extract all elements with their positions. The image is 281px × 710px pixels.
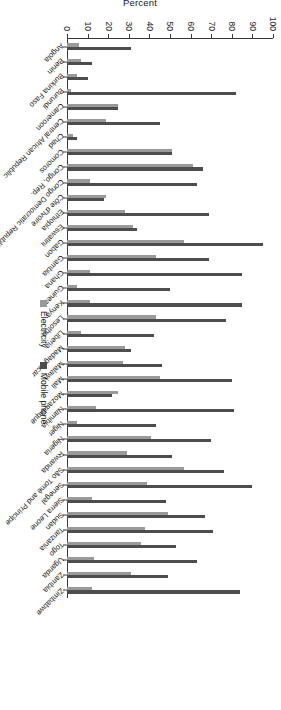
bar-group [67, 553, 273, 568]
bar-group [67, 130, 273, 145]
bar-mobile-phone [67, 439, 211, 442]
bar-mobile-phone [67, 470, 224, 473]
category-label-slot: Niger [3, 418, 67, 433]
category-label-slot: Ethiopia [3, 206, 67, 221]
value-tick-label: 50 [166, 22, 175, 31]
value-tick-label: 70 [207, 22, 216, 31]
bar-mobile-phone [67, 122, 160, 125]
bar-mobile-phone [67, 455, 172, 458]
bar-group [67, 99, 273, 114]
bar-group [67, 190, 273, 205]
bar-mobile-phone [67, 77, 88, 80]
bar-group [67, 341, 273, 356]
bar-group [67, 583, 273, 598]
bar-group [67, 175, 273, 190]
bar-group [67, 220, 273, 235]
category-label-slot: Kenya [3, 296, 67, 311]
category-label-slot: Zambia [3, 569, 67, 584]
category-label-slot: Zimbabwe [3, 584, 67, 599]
bar-group [67, 523, 273, 538]
bar-mobile-phone [67, 545, 176, 548]
category-label-slot: Nigeria [3, 433, 67, 448]
value-tick-70: 70 [211, 34, 212, 38]
value-tick-100: 100 [273, 34, 274, 38]
value-tick-20: 20 [108, 34, 109, 38]
value-axis-title: Percent [123, 0, 157, 8]
bar-mobile-phone [67, 409, 234, 412]
value-tick-label: 100 [269, 17, 278, 31]
bar-groups [67, 39, 273, 598]
bar-group [67, 266, 273, 281]
value-tick-60: 60 [191, 34, 192, 38]
mobile-phone-swatch [41, 362, 48, 369]
bar-group [67, 447, 273, 462]
category-label-slot: Gambia [3, 251, 67, 266]
legend-item-mobile-phone: Mobile phone [39, 362, 49, 425]
value-tick-label: 80 [228, 22, 237, 31]
bar-mobile-phone [67, 228, 137, 231]
category-label-slot: Ghana [3, 266, 67, 281]
bar-mobile-phone [67, 560, 197, 563]
category-label-slot: Uganda [3, 554, 67, 569]
value-tick-40: 40 [149, 34, 150, 38]
bar-group [67, 417, 273, 432]
value-tick-label: 0 [63, 26, 72, 31]
bar-mobile-phone [67, 288, 170, 291]
rotated-figure-wrapper: 0102030405060708090100 Percent AngolaBen… [0, 0, 281, 710]
category-label-slot: Eswatini [3, 221, 67, 236]
category-label-slot: Namibia [3, 402, 67, 417]
electricity-swatch [41, 300, 48, 307]
bar-group [67, 432, 273, 447]
value-tick-0: 0 [67, 34, 68, 38]
category-label-slot: Central African Republic [3, 115, 67, 130]
bar-mobile-phone [67, 349, 131, 352]
bar-group [67, 54, 273, 69]
category-label-slot: Gabon [3, 236, 67, 251]
value-tick-label: 20 [104, 22, 113, 31]
bar-mobile-phone [67, 424, 156, 427]
category-label-slot: Angola [3, 39, 67, 54]
bar-group [67, 296, 273, 311]
bar-mobile-phone [67, 515, 205, 518]
bar-group [67, 39, 273, 54]
value-tick-80: 80 [232, 34, 233, 38]
bar-mobile-phone [67, 167, 203, 170]
bar-mobile-phone [67, 258, 209, 261]
bar-group [67, 69, 273, 84]
bar-mobile-phone [67, 107, 119, 110]
legend-label-electricity: Electricity [39, 311, 49, 348]
value-tick-label: 60 [187, 22, 196, 31]
category-label-slot: Burkina Faso [3, 69, 67, 84]
category-label-slot: Congo Democratic Republic [3, 175, 67, 190]
value-tick-label: 30 [125, 22, 134, 31]
value-tick-label: 40 [146, 22, 155, 31]
chart-legend: Electricity Mobile phone [39, 300, 49, 424]
legend-item-electricity: Electricity [39, 300, 49, 348]
bar-mobile-phone [67, 319, 226, 322]
bar-group [67, 205, 273, 220]
category-label-slot: Lesotho [3, 312, 67, 327]
plot-area: 0102030405060708090100 [67, 38, 273, 598]
bar-group [67, 115, 273, 130]
category-label-slot: Mali [3, 372, 67, 387]
bar-mobile-phone [67, 47, 131, 50]
category-label: Zimbabwe [35, 586, 65, 616]
value-tick-label: 10 [84, 22, 93, 31]
bar-chart-figure: 0102030405060708090100 Percent AngolaBen… [0, 0, 281, 710]
category-label-slot: Sudan [3, 508, 67, 523]
category-label-slot: Chad [3, 130, 67, 145]
bar-group [67, 235, 273, 250]
category-label-slot: Congo, Rep. [3, 160, 67, 175]
value-tick-90: 90 [252, 34, 253, 38]
bar-mobile-phone [67, 137, 77, 140]
bar-group [67, 145, 273, 160]
bar-mobile-phone [67, 243, 263, 246]
bar-mobile-phone [67, 364, 162, 367]
category-label-slot: Comoros [3, 145, 67, 160]
bar-mobile-phone [67, 273, 242, 276]
bar-group [67, 462, 273, 477]
bar-mobile-phone [67, 394, 112, 397]
bar-mobile-phone [67, 198, 104, 201]
bar-mobile-phone [67, 485, 252, 488]
category-label-slot: Côte d'Ivoire [3, 190, 67, 205]
